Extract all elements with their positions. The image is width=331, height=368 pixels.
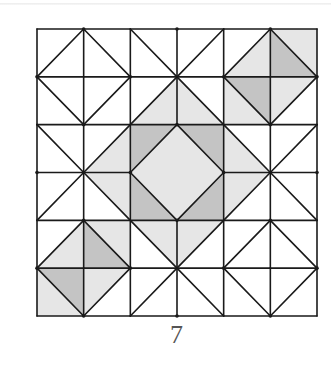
- vertex-dot: [222, 266, 226, 270]
- vertex-dot: [315, 266, 319, 270]
- quilt-pattern-diagram: [0, 0, 331, 368]
- vertex-dot: [35, 75, 39, 79]
- vertex-dot: [129, 75, 133, 79]
- vertex-dot: [269, 314, 273, 318]
- figure-number: 7: [0, 320, 331, 350]
- vertex-dot: [82, 27, 86, 31]
- vertex-dot: [129, 266, 133, 270]
- vertex-dot: [175, 123, 179, 127]
- vertex-dot: [315, 75, 319, 79]
- vertex-dot: [35, 171, 39, 175]
- vertex-dot: [175, 219, 179, 223]
- vertex-dot: [175, 27, 179, 31]
- vertex-dot: [35, 266, 39, 270]
- vertex-dot: [175, 314, 179, 318]
- vertex-dot: [82, 123, 86, 127]
- vertex-dot: [222, 171, 226, 175]
- vertex-dot: [222, 75, 226, 79]
- vertex-dot: [269, 219, 273, 223]
- vertex-dot: [315, 171, 319, 175]
- vertex-dot: [269, 123, 273, 127]
- vertex-dot: [269, 27, 273, 31]
- vertex-dot: [82, 219, 86, 223]
- vertex-dot: [82, 314, 86, 318]
- vertex-dot: [129, 171, 133, 175]
